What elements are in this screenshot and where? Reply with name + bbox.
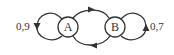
state-diagram: A B 0,9 0,7 bbox=[0, 0, 174, 55]
self-loop-b-label: 0,7 bbox=[150, 20, 164, 32]
node-a: A bbox=[58, 17, 78, 37]
self-loop-a-label: 0,9 bbox=[16, 20, 30, 32]
node-b-label: B bbox=[111, 20, 119, 34]
node-b: B bbox=[105, 17, 125, 37]
arrowhead-icon bbox=[34, 23, 41, 30]
edge-b-to-a bbox=[73, 36, 110, 49]
arrowhead-icon bbox=[90, 43, 97, 49]
node-a-label: A bbox=[64, 20, 73, 34]
arrowhead-icon bbox=[143, 24, 150, 31]
edge-a-to-b bbox=[73, 7, 109, 19]
arrowhead-icon bbox=[88, 7, 95, 13]
